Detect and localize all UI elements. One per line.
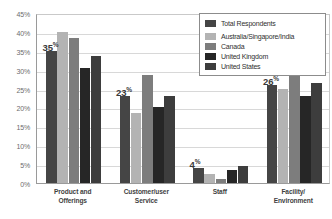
legend-label: Australia/Singapore/India [221,33,294,40]
bar [227,170,238,183]
legend-swatch-icon [205,33,216,40]
y-axis: 45%40%35%30%25%20%15%10%5%0% [0,14,34,184]
y-axis-tick-label: 45% [17,11,30,18]
y-axis-tick-label: 20% [17,105,30,112]
legend-item: Canada [205,41,321,51]
legend-swatch-icon [205,53,216,60]
bar [164,96,175,183]
legend-label: United States [221,63,260,70]
data-label: 23% [116,86,132,98]
y-axis-tick-label: 40% [17,29,30,36]
x-axis-category-label: Staff [183,187,257,196]
bar [278,89,289,183]
bar [216,179,227,183]
bar [153,107,164,183]
y-axis-tick-label: 35% [17,48,30,55]
bar-chart: 45%40%35%30%25%20%15%10%5%0% 35%23%4%26%… [0,0,332,219]
y-axis-tick-label: 10% [17,143,30,150]
x-axis-category-labels: Product andOfferingsCustomer/userService… [36,187,330,219]
category-label-line: Offerings [36,196,110,205]
x-axis-category-label: Facility/Environment [257,187,331,205]
legend-swatch-icon [205,43,216,50]
data-label: 26% [263,75,279,87]
legend-swatch-icon [205,20,216,27]
legend-swatch-icon [205,63,216,70]
legend-item: United Kingdom [205,51,321,61]
y-axis-tick-label: 5% [20,162,30,169]
bar [69,38,80,183]
category-label-line: Facility/ [257,187,331,196]
bar-group [111,15,185,183]
y-axis-tick-label: 25% [17,86,30,93]
bar [57,32,68,183]
data-label: 4% [190,158,201,170]
category-label-line: Service [110,196,184,205]
bar [289,66,300,183]
category-label-line: Environment [257,196,331,205]
bar [80,68,91,183]
legend-label: Total Respondents [221,20,276,27]
data-label: 35% [43,41,59,53]
bar [46,51,57,183]
y-axis-tick-label: 0% [20,181,30,188]
x-axis-category-label: Customer/userService [110,187,184,205]
bar [204,174,215,183]
category-label-line: Product and [36,187,110,196]
legend-item: Australia/Singapore/India [205,31,321,41]
bar [193,168,204,183]
legend-label: Canada [221,43,244,50]
y-axis-tick-label: 30% [17,67,30,74]
legend-item: United States [205,61,321,71]
category-label-line: Customer/user [110,187,184,196]
bar [311,83,322,183]
bar [131,113,142,183]
legend-label: United Kingdom [221,53,268,60]
y-axis-tick-label: 15% [17,124,30,131]
bar [120,96,131,183]
x-axis-category-label: Product andOfferings [36,187,110,205]
category-label-line: Staff [183,187,257,196]
bar [91,56,102,183]
chart-legend: Total RespondentsAustralia/Singapore/Ind… [199,13,326,76]
bar [238,166,249,183]
bar [300,96,311,183]
legend-item: Total Respondents [205,18,321,28]
bar [142,75,153,183]
bar [267,85,278,183]
